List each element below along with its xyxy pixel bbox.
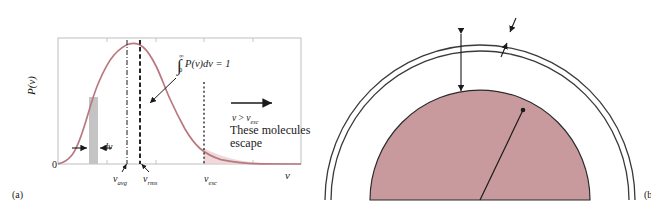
panel-b-tag: (b) [644, 190, 651, 200]
radius-endpoint-dot [521, 108, 526, 113]
panel-a-maxwell-distribution: P(v) 0 v vavg vrms vesc dv ∞ ∫ 0 P(v)dv … [0, 0, 320, 211]
panel-a-tag: (a) [12, 190, 23, 200]
panel-a-plot [0, 0, 320, 211]
tick-label-v-esc-subscript: esc [208, 179, 216, 186]
shell-thickness-arrow-bottom [501, 43, 507, 57]
x-axis-label: v [285, 170, 290, 181]
v-rms-pointer [142, 164, 150, 172]
figure-container: P(v) 0 v vavg vrms vesc dv ∞ ∫ 0 P(v)dv … [0, 0, 651, 211]
v-avg-pointer [122, 164, 127, 172]
integral-annotation: ∞ ∫ 0 P(v)dv = 1 [176, 58, 231, 72]
tick-label-v-avg-subscript: avg [117, 179, 127, 186]
escape-condition-operator: > [236, 113, 246, 123]
tick-label-v-avg: vavg [113, 174, 127, 184]
tick-label-v-rms: vrms [143, 174, 157, 184]
escape-condition-v-esc: v [246, 113, 250, 123]
integral-body: P(v)dv = 1 [185, 58, 231, 69]
origin-label: 0 [52, 160, 57, 170]
shell-thickness-arrow-top [510, 18, 516, 32]
panel-b-earth-shell-diagram: vrmsΔt h RE (b) [320, 0, 651, 211]
earth-semicircle [370, 90, 590, 200]
dv-label: dv [103, 142, 112, 152]
panel-b-diagram [320, 0, 651, 211]
tick-label-v-esc: vesc [204, 174, 217, 184]
integral-lower-limit: 0 [179, 67, 182, 74]
integral-symbol-stack: ∞ ∫ 0 [176, 58, 185, 72]
y-axis-label: P(v) [26, 76, 37, 95]
tick-label-v-rms-subscript: rms [147, 179, 157, 186]
escape-text: These molecules escape [230, 124, 316, 150]
